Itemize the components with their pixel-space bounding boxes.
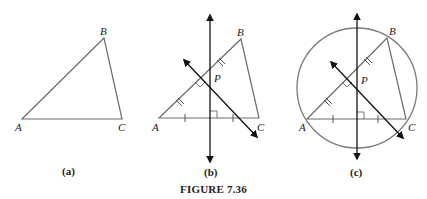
vertex-b-label: B	[237, 26, 244, 38]
triangle-abc	[22, 38, 122, 119]
vertex-c-label: C	[408, 121, 416, 133]
right-angle-marker	[210, 111, 217, 118]
caption-b: (b)	[204, 166, 218, 179]
point-p-label: P	[213, 72, 221, 84]
triangle-abc	[159, 39, 259, 118]
panel-b: A B C P (b)	[151, 15, 265, 179]
vertex-b-label: B	[100, 25, 107, 37]
vertex-b-label: B	[389, 25, 396, 37]
right-angle-marker	[357, 112, 364, 119]
right-angle-marker	[195, 82, 205, 87]
vertex-a-label: A	[298, 121, 306, 133]
figure-canvas: A B C (a) A B C P (b)	[0, 0, 427, 199]
vertex-c-label: C	[118, 121, 126, 133]
point-p-label: P	[360, 74, 368, 86]
double-tick-mark	[217, 58, 225, 66]
caption-a: (a)	[62, 165, 75, 178]
caption-c: (c)	[350, 166, 363, 179]
vertex-a-label: A	[14, 121, 22, 133]
panel-a: A B C (a)	[14, 25, 126, 178]
double-tick-mark	[364, 57, 372, 65]
double-tick-mark	[324, 98, 332, 106]
double-tick-mark	[176, 98, 184, 106]
figure-title: FIGURE 7.36	[180, 183, 247, 195]
panel-c: A B C P (c)	[297, 14, 417, 179]
vertex-c-label: C	[257, 121, 265, 133]
vertex-a-label: A	[151, 121, 159, 133]
